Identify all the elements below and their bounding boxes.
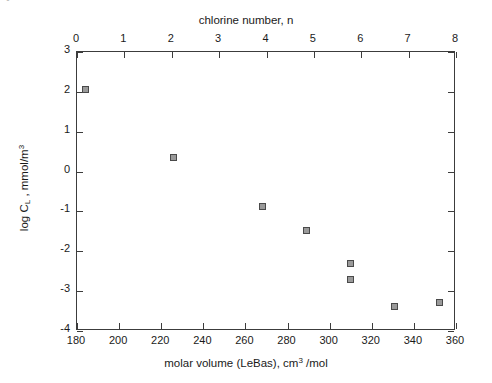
y-axis-tick-label: -1 — [44, 202, 70, 214]
y-axis-tick — [77, 291, 83, 292]
top-axis-tick — [124, 52, 125, 58]
x-axis-tick — [119, 323, 120, 329]
y-axis-tick-label: -3 — [44, 282, 70, 294]
y-axis-tick-right — [448, 291, 454, 292]
x-axis-title-pre: molar volume (LeBas), cm — [164, 357, 298, 369]
y-axis-tick-right — [448, 172, 454, 173]
y-axis-tick-label: -2 — [44, 242, 70, 254]
top-axis-tick-label: 6 — [340, 32, 380, 44]
y-axis-tick — [77, 52, 83, 53]
y-axis-tick-right — [448, 52, 454, 53]
top-axis-tick-label: 4 — [246, 32, 286, 44]
y-axis-tick-label: -4 — [44, 322, 70, 334]
top-axis-tick — [267, 52, 268, 58]
data-point-marker — [303, 227, 310, 234]
x-axis-tick — [372, 323, 373, 329]
y-axis-tick-label: 0 — [44, 163, 70, 175]
plot-area — [76, 51, 455, 330]
x-axis-tick — [203, 323, 204, 329]
y-axis-tick — [77, 331, 83, 332]
y-axis-title-sub: L — [23, 200, 32, 204]
y-axis-title-mid: , mmol/m — [18, 149, 30, 199]
x-axis-tick — [245, 323, 246, 329]
top-axis-tick — [409, 52, 410, 58]
y-axis-tick-label: 3 — [44, 43, 70, 55]
top-axis-tick-label: 1 — [103, 32, 143, 44]
y-axis-tick-right — [448, 132, 454, 133]
data-point-marker — [82, 86, 89, 93]
top-axis-tick — [361, 52, 362, 58]
top-axis-tick — [219, 52, 220, 58]
top-axis-title-text: chlorine number, n — [199, 14, 294, 26]
y-axis-tick — [77, 251, 83, 252]
y-axis-tick — [77, 211, 83, 212]
scatter-chart-figure: • chlorine number, n log CL , mmol/m3 mo… — [0, 0, 492, 383]
data-point-marker — [436, 299, 443, 306]
y-axis-title-sup: 3 — [17, 145, 26, 149]
top-axis-tick — [456, 52, 457, 58]
top-axis-title: chlorine number, n — [0, 14, 492, 26]
y-axis-tick — [77, 132, 83, 133]
top-axis-tick-label: 3 — [198, 32, 238, 44]
x-axis-tick — [161, 323, 162, 329]
y-axis-tick-right — [448, 251, 454, 252]
top-axis-tick-label: 2 — [151, 32, 191, 44]
x-axis-tick-label: 360 — [430, 334, 480, 346]
x-axis-tick — [414, 323, 415, 329]
top-axis-tick-label: 5 — [293, 32, 333, 44]
y-axis-tick-right — [448, 92, 454, 93]
top-axis-tick — [172, 52, 173, 58]
top-axis-tick-label: 7 — [388, 32, 428, 44]
x-axis-title-sup: 3 — [298, 356, 302, 365]
data-point-marker — [347, 260, 354, 267]
top-axis-tick — [314, 52, 315, 58]
x-axis-tick — [456, 323, 457, 329]
y-axis-tick — [77, 172, 83, 173]
data-point-marker — [391, 303, 398, 310]
y-axis-tick-label: 2 — [44, 83, 70, 95]
y-axis-title-pre: log C — [18, 204, 30, 231]
y-axis-tick-label: 1 — [44, 123, 70, 135]
x-axis-tick — [330, 323, 331, 329]
top-axis-tick-label: 8 — [435, 32, 475, 44]
y-axis-title: log CL , mmol/m3 — [18, 88, 30, 288]
data-point-marker — [259, 203, 266, 210]
data-point-marker — [347, 276, 354, 283]
y-axis-tick-right — [448, 331, 454, 332]
data-point-marker — [170, 154, 177, 161]
x-axis-tick — [77, 323, 78, 329]
scan-artifact: • — [6, 0, 10, 5]
x-axis-title: molar volume (LeBas), cm3 /mol — [0, 357, 492, 369]
y-axis-tick-right — [448, 211, 454, 212]
x-axis-tick — [288, 323, 289, 329]
x-axis-title-post: /mol — [303, 357, 328, 369]
